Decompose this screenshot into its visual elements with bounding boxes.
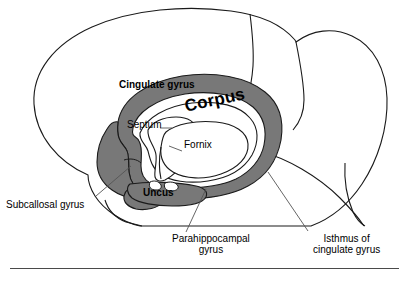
label-parahippocampal-gyrus-line2: gyrus [172,245,250,256]
label-uncus: Uncus [143,188,174,199]
label-fornix: Fornix [184,140,212,151]
label-parahippocampal-gyrus: Parahippocampal gyrus [172,234,250,256]
label-isthmus-line2: cingulate gyrus [313,245,380,256]
label-septum: Septum [127,120,161,131]
brain-limbic-lobe-figure: Cingulate gyrus Corpus Septum Fornix Unc… [0,0,409,281]
label-cingulate-gyrus: Cingulate gyrus [119,80,195,91]
label-isthmus-of-cingulate-gyrus: Isthmus of cingulate gyrus [313,234,380,256]
label-subcallosal-gyrus: Subcallosal gyrus [6,200,84,211]
figure-bottom-rule [10,268,399,269]
